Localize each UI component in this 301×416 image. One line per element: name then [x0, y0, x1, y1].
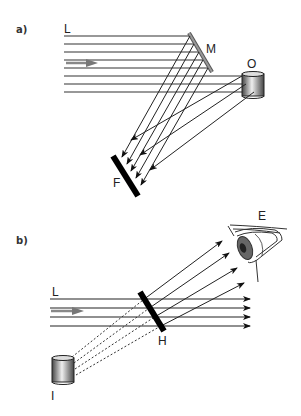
virtual-rays — [72, 300, 159, 375]
label-l-a: L — [64, 22, 71, 36]
diffracted-beams — [143, 241, 244, 327]
label-i: I — [51, 389, 54, 403]
holography-diagram: a) L M O — [0, 0, 301, 416]
eye-icon — [228, 225, 287, 282]
label-f: F — [113, 176, 120, 190]
panel-b: b) L H — [16, 209, 287, 403]
hologram-h — [140, 292, 164, 331]
panel-b-label: b) — [16, 235, 28, 246]
reference-beams — [122, 36, 208, 185]
label-l-b: L — [52, 285, 59, 299]
panel-a-label: a) — [16, 24, 27, 35]
label-h: H — [158, 334, 167, 348]
label-m: M — [206, 42, 216, 56]
virtual-image-i — [52, 356, 74, 385]
label-o: O — [247, 57, 256, 71]
label-e: E — [258, 209, 266, 223]
panel-a: a) L M O — [16, 22, 264, 196]
